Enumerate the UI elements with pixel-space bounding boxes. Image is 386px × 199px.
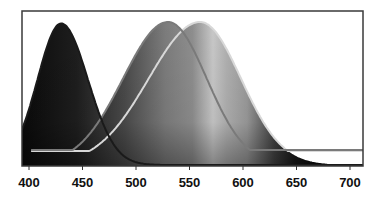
x-tick-label: 600 <box>232 175 254 190</box>
spectral-sensitivity-chart: 400450500550600650700 <box>0 0 386 199</box>
x-tick-label: 550 <box>179 175 201 190</box>
x-tick-label: 700 <box>339 175 361 190</box>
x-tick-label: 450 <box>72 175 94 190</box>
x-axis: 400450500550600650700 <box>18 166 361 190</box>
x-tick-label: 650 <box>286 175 308 190</box>
x-tick-label: 400 <box>18 175 40 190</box>
x-tick-label: 500 <box>125 175 147 190</box>
